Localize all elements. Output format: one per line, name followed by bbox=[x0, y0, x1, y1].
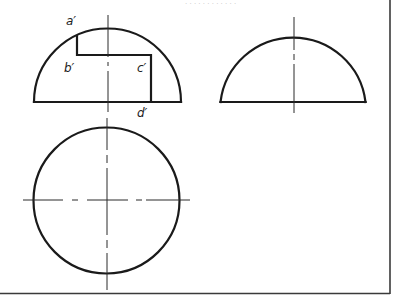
label-b-prime: b′ bbox=[64, 61, 75, 75]
top-view bbox=[23, 118, 190, 290]
label-a-prime: a′ bbox=[66, 14, 76, 28]
label-d-prime: d′ bbox=[137, 106, 148, 120]
header-fragment: · · · · · · · · · · · · bbox=[185, 0, 236, 8]
front-view: a′ b′ c′ d′ bbox=[34, 14, 181, 120]
label-c-prime: c′ bbox=[137, 61, 147, 75]
projection-drawing: · · · · · · · · · · · · a′ b′ c′ d′ bbox=[0, 0, 393, 301]
side-view bbox=[221, 17, 366, 113]
side-view-arc bbox=[221, 38, 366, 102]
page-border bbox=[0, 0, 390, 294]
